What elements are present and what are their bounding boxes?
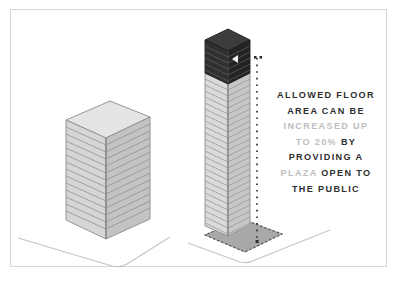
diagram-canvas: ALLOWED FLOOR AREA CAN BE INCREASED UP T…	[0, 0, 399, 286]
bonus-tower-bonus-volume	[205, 29, 250, 84]
callout-seg-percent: TO 20%	[296, 137, 337, 147]
callout-seg: AREA CAN BE	[287, 106, 365, 116]
callout-line-6: PLAZA OPEN TO	[272, 166, 380, 182]
callout-line-7: THE PUBLIC	[272, 182, 380, 198]
callout-seg: PROVIDING A	[289, 152, 364, 162]
callout-line-4: TO 20% BY	[272, 135, 380, 151]
callout-seg: ALLOWED FLOOR	[277, 90, 375, 100]
callout-seg: THE PUBLIC	[292, 184, 360, 194]
callout-line-5: PROVIDING A	[272, 150, 380, 166]
callout-line-3: INCREASED UP	[272, 119, 380, 135]
callout-seg: OPEN TO	[317, 168, 371, 178]
callout-seg: INCREASED UP	[284, 121, 369, 131]
callout-line-1: ALLOWED FLOOR	[272, 88, 380, 104]
base-building	[66, 101, 150, 239]
callout-seg: BY	[337, 137, 356, 147]
callout-line-2: AREA CAN BE	[272, 104, 380, 120]
callout-seg-plaza: PLAZA	[281, 168, 318, 178]
ground-plane-left	[18, 237, 170, 267]
bonus-height-dimension-line	[254, 56, 262, 243]
bonus-tower-lower	[205, 73, 250, 236]
bonus-floor-area-callout: ALLOWED FLOOR AREA CAN BE INCREASED UP T…	[272, 88, 380, 197]
